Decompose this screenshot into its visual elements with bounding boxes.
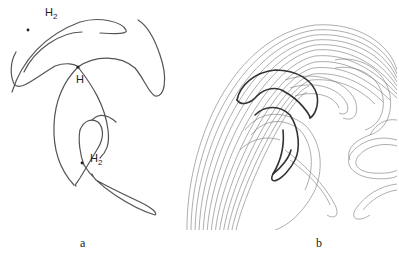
label-h2-top: H2 xyxy=(45,6,57,21)
point-h2-top xyxy=(27,29,30,32)
label-h-center: H xyxy=(76,73,84,85)
manifold-curves xyxy=(0,0,185,254)
caption-a: a xyxy=(80,236,85,251)
streamline-field xyxy=(185,0,399,254)
point-h2-bottom xyxy=(81,162,84,165)
label-h2-bottom: H2 xyxy=(90,152,102,167)
panel-a-manifolds: H2 H H2 a xyxy=(0,0,185,254)
caption-b: b xyxy=(316,236,322,251)
panel-b-streamlines: b xyxy=(185,0,399,254)
saddle-point-h xyxy=(76,65,79,68)
